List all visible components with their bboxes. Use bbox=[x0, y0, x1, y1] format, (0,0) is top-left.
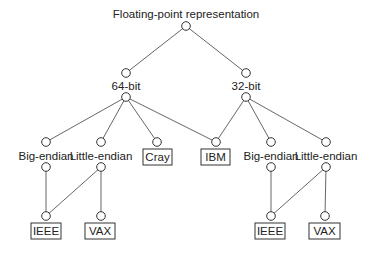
edge-l-littleendian-ieee bbox=[46, 167, 101, 216]
edge-root-32bit bbox=[186, 26, 246, 73]
l-littleendian-bottom-node bbox=[97, 163, 106, 172]
l-vax-label: VAX bbox=[89, 225, 111, 237]
l-bigendian-top-node bbox=[42, 138, 51, 147]
64bit-top-node bbox=[122, 69, 131, 78]
edge-64bit-ibm bbox=[126, 97, 216, 142]
root-node bbox=[182, 22, 191, 31]
r-vax-label: VAX bbox=[313, 225, 335, 237]
32bit-bottom-node bbox=[242, 93, 251, 102]
l-bigendian-bottom-node bbox=[42, 163, 51, 172]
l-bigendian-label: Big-endian bbox=[19, 150, 74, 162]
l-ieee-node bbox=[42, 212, 51, 221]
r-ieee-label: IEEE bbox=[257, 225, 284, 237]
l-littleendian-label: Little-endian bbox=[70, 150, 133, 162]
edge-32bit-ibm bbox=[216, 97, 246, 142]
l-littleendian-top-node bbox=[97, 138, 106, 147]
edge-r-littleendian-vax bbox=[325, 167, 326, 216]
edge-64bit-cray bbox=[126, 97, 157, 142]
cray-label: Cray bbox=[145, 151, 170, 163]
r-bigendian-label: Big-endian bbox=[244, 150, 299, 162]
root-label: Floating-point representation bbox=[113, 8, 259, 20]
r-bigendian-top-node bbox=[267, 138, 276, 147]
r-ieee-node bbox=[267, 212, 276, 221]
l-vax-node bbox=[97, 212, 106, 221]
r-bigendian-bottom-node bbox=[267, 163, 276, 172]
r-littleendian-bottom-node bbox=[322, 163, 331, 172]
ibm-node bbox=[212, 138, 221, 147]
32bit-label: 32-bit bbox=[232, 80, 262, 92]
64bit-bottom-node bbox=[122, 93, 131, 102]
64bit-label: 64-bit bbox=[112, 80, 142, 92]
r-littleendian-top-node bbox=[322, 138, 331, 147]
edge-r-littleendian-ieee bbox=[271, 167, 326, 216]
cray-node bbox=[153, 138, 162, 147]
r-littleendian-label: Little-endian bbox=[295, 150, 358, 162]
l-ieee-label: IEEE bbox=[33, 225, 60, 237]
r-vax-node bbox=[321, 212, 330, 221]
edges bbox=[46, 26, 326, 216]
edge-root-64bit bbox=[126, 26, 186, 73]
32bit-top-node bbox=[242, 69, 251, 78]
ibm-label: IBM bbox=[205, 151, 225, 163]
floating-point-tree-diagram: Floating-point representation 64-bit 32-… bbox=[0, 0, 369, 254]
